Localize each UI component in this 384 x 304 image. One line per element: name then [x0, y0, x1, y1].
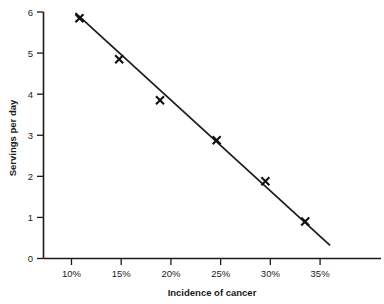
y-tick-label: 4	[28, 89, 33, 100]
x-tick-label: 25%	[211, 268, 231, 279]
x-tick-label: 35%	[311, 268, 331, 279]
y-axis-title: Servings per day	[7, 99, 18, 176]
scatter-plot-svg: 0123456 10%15%20%25%30%35% Incidence of …	[0, 0, 384, 304]
x-tick-label: 15%	[112, 268, 132, 279]
y-tick-label: 3	[28, 130, 33, 141]
y-tick-label: 2	[28, 171, 33, 182]
y-tick-label: 1	[28, 212, 33, 223]
x-tick-label: 10%	[62, 268, 82, 279]
x-tick-label: 30%	[261, 268, 281, 279]
x-tick-label: 20%	[161, 268, 181, 279]
y-tick-label: 6	[28, 7, 33, 18]
chart-figure: 0123456 10%15%20%25%30%35% Incidence of …	[0, 0, 384, 304]
y-tick-label: 0	[28, 253, 33, 264]
y-tick-label: 5	[28, 48, 33, 59]
x-axis-title: Incidence of cancer	[168, 287, 257, 298]
